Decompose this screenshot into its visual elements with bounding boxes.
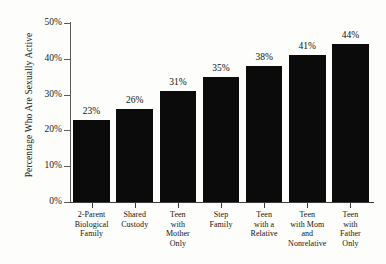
bar — [289, 55, 325, 202]
category-label-line: Teen — [286, 210, 329, 220]
category-label-line: Family — [70, 229, 113, 239]
y-tick-label-wrap: 50% — [18, 18, 62, 28]
category-label-line: Teen — [243, 210, 286, 220]
bar-value-label: 44% — [332, 30, 368, 40]
bar — [332, 44, 368, 202]
y-tick-label-wrap: 40% — [18, 54, 62, 64]
category-label-line: Teen — [156, 210, 199, 220]
bar-chart: Percentage Who Are Sexually Active 0%10%… — [0, 0, 386, 264]
x-axis-category-label: 2-ParentBiologicalFamily — [70, 210, 113, 239]
y-tick-label: 50% — [24, 18, 62, 28]
x-tick — [307, 203, 308, 208]
y-tick-label: 20% — [24, 125, 62, 135]
x-axis-category-label: Teenwith aRelative — [243, 210, 286, 239]
category-label-line: Custody — [113, 220, 156, 230]
y-tick-label: 0% — [24, 197, 62, 207]
category-label-line: Nonrelative — [286, 239, 329, 249]
category-label-line: Teen — [329, 210, 372, 220]
x-axis-category-label: Teenwith MomandNonrelative — [286, 210, 329, 248]
bar — [246, 66, 282, 202]
x-axis-category-label: TeenwithFatherOnly — [329, 210, 372, 248]
bar-value-label: 23% — [73, 106, 109, 116]
x-axis-category-label: SharedCustody — [113, 210, 156, 229]
y-tick-label-wrap: 10% — [18, 161, 62, 171]
x-axis-category-label: TeenwithMotherOnly — [156, 210, 199, 248]
x-tick — [135, 203, 136, 208]
bar — [73, 120, 109, 202]
bar-value-label: 31% — [160, 77, 196, 87]
x-axis-category-label: StepFamily — [199, 210, 242, 229]
x-tick — [264, 203, 265, 208]
category-label-line: Family — [199, 220, 242, 230]
category-label-line: and — [286, 229, 329, 239]
category-label-line: Only — [156, 239, 199, 249]
bar-value-label: 35% — [203, 63, 239, 73]
x-tick — [350, 203, 351, 208]
category-label-line: with — [329, 220, 372, 230]
category-label-line: Step — [199, 210, 242, 220]
plot-area — [70, 23, 372, 202]
bar — [203, 77, 239, 202]
x-tick — [178, 203, 179, 208]
category-label-line: with Mom — [286, 220, 329, 230]
category-label-line: 2-Parent — [70, 210, 113, 220]
category-label-line: Mother — [156, 229, 199, 239]
category-label-line: with a — [243, 220, 286, 230]
y-tick-label-wrap: 0% — [18, 197, 62, 207]
category-label-line: with — [156, 220, 199, 230]
y-tick — [64, 202, 70, 203]
bar — [160, 91, 196, 202]
bar-value-label: 41% — [289, 41, 325, 51]
y-tick-label-wrap: 20% — [18, 125, 62, 135]
bar-value-label: 38% — [246, 52, 282, 62]
y-axis-title: Percentage Who Are Sexually Active — [22, 5, 36, 205]
category-label-line: Shared — [113, 210, 156, 220]
y-tick-label-wrap: 30% — [18, 90, 62, 100]
category-label-line: Father — [329, 229, 372, 239]
x-tick — [92, 203, 93, 208]
bar-value-label: 26% — [116, 95, 152, 105]
bar — [116, 109, 152, 202]
category-label-line: Only — [329, 239, 372, 249]
x-axis-line — [70, 202, 374, 203]
y-tick-label: 40% — [24, 54, 62, 64]
x-tick — [221, 203, 222, 208]
y-tick-label: 10% — [24, 161, 62, 171]
category-label-line: Biological — [70, 220, 113, 230]
y-tick-label: 30% — [24, 90, 62, 100]
category-label-line: Relative — [243, 229, 286, 239]
